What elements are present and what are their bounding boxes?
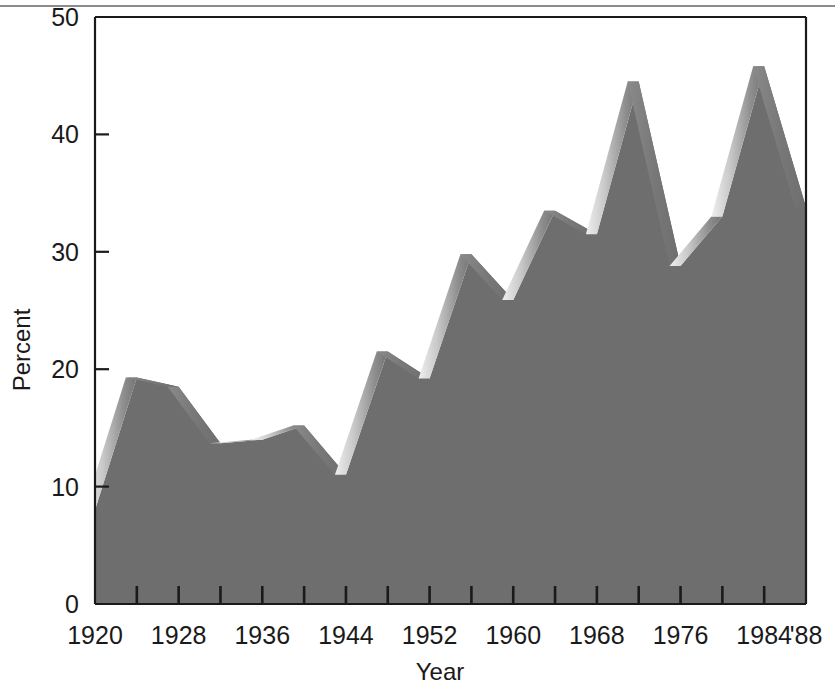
x-tick-label: 1960 — [485, 621, 541, 649]
y-tick-label: 20 — [51, 355, 79, 383]
y-tick-label: 0 — [65, 590, 79, 618]
x-tick-label: 1936 — [234, 621, 290, 649]
x-tick-label: 1968 — [569, 621, 625, 649]
y-tick-label: 50 — [51, 3, 79, 31]
figure-container: 01020304050 1920192819361944195219601968… — [0, 0, 835, 690]
x-axis-title: Year — [416, 658, 465, 685]
x-tick-label: 1984 — [736, 621, 792, 649]
x-tick-label: 1920 — [67, 621, 123, 649]
y-tick-label: 10 — [51, 473, 79, 501]
y-tick-label: 40 — [51, 120, 79, 148]
x-tick-label: 1976 — [653, 621, 709, 649]
y-axis-tick-labels: 01020304050 — [51, 3, 79, 618]
x-axis-tick-labels: 192019281936194419521960196819761984'88 — [67, 621, 822, 649]
x-tick-label: 1952 — [402, 621, 458, 649]
x-tick-label: 1944 — [318, 621, 374, 649]
x-tick-label: '88 — [790, 621, 823, 649]
x-tick-label: 1928 — [151, 621, 207, 649]
area-chart: 01020304050 1920192819361944195219601968… — [0, 0, 835, 690]
y-tick-label: 30 — [51, 238, 79, 266]
y-axis-title: Percent — [8, 308, 35, 391]
